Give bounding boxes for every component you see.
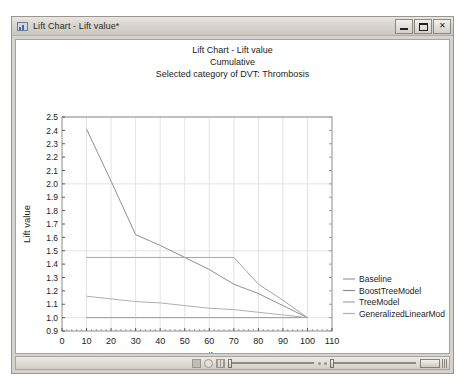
horizontal-scale-slider[interactable]: [228, 359, 314, 368]
y-tick-label: 1.9: [46, 192, 58, 202]
status-readout-box: [420, 359, 440, 368]
y-tick-label: 1.6: [46, 233, 58, 243]
y-tick-label: 1.4: [46, 259, 58, 269]
x-tick-label: 0: [59, 336, 64, 346]
window-title: Lift Chart - Lift value*: [33, 21, 394, 31]
x-tick-label: 100: [300, 336, 315, 346]
slider-separator-dot: [324, 362, 327, 365]
series-line-boosttreemodel: [87, 129, 308, 318]
window-titlebar[interactable]: Lift Chart - Lift value* ✕: [12, 17, 453, 36]
legend-label: GeneralizedLinearMod: [359, 309, 445, 319]
chart-legend[interactable]: BaselineBoostTreeModelTreeModelGeneraliz…: [343, 274, 445, 319]
vertical-scale-slider[interactable]: [330, 359, 416, 368]
x-tick-label: 60: [204, 336, 214, 346]
y-tick-label: 2.5: [46, 112, 58, 122]
x-tick-label: 80: [253, 336, 263, 346]
y-axis-tick-labels: 0.91.01.11.21.31.41.51.61.71.81.92.02.12…: [46, 112, 58, 336]
y-tick-label: 2.3: [46, 139, 58, 149]
y-axis-title: Lift value: [21, 205, 32, 243]
y-tick-label: 1.1: [46, 299, 58, 309]
x-tick-label: 10: [82, 336, 92, 346]
legend-label: BoostTreeModel: [359, 286, 421, 296]
status-bar[interactable]: [15, 356, 450, 370]
x-tick-label: 20: [106, 336, 116, 346]
maximize-button[interactable]: [414, 19, 432, 34]
x-tick-label: 110: [325, 336, 339, 346]
resize-grip-icon[interactable]: [442, 359, 447, 368]
y-tick-label: 1.3: [46, 273, 58, 283]
series-line-treemodel: [87, 257, 308, 317]
chart-canvas[interactable]: Lift Chart - Lift value Cumulative Selec…: [15, 39, 450, 354]
lift-chart-plot: 0.91.01.11.21.31.41.51.61.71.81.92.02.12…: [16, 40, 450, 354]
minimize-button[interactable]: [395, 19, 413, 34]
x-tick-label: 70: [229, 336, 239, 346]
axis-ticks: [62, 117, 332, 331]
x-tick-label: 50: [180, 336, 190, 346]
y-tick-label: 1.8: [46, 206, 58, 216]
slider-separator-dot: [318, 362, 321, 365]
y-tick-label: 1.5: [46, 246, 58, 256]
y-tick-label: 2.0: [46, 179, 58, 189]
data-series-lines: [87, 129, 308, 318]
legend-label: Baseline: [359, 274, 392, 284]
chart-window-icon: [16, 20, 29, 33]
x-axis-tick-labels: 0102030405060708090100110: [59, 336, 339, 346]
y-tick-label: 1.0: [46, 313, 58, 323]
y-tick-label: 2.4: [46, 126, 58, 136]
chart-type-icon[interactable]: [192, 359, 201, 368]
y-tick-label: 2.2: [46, 152, 58, 162]
legend-item[interactable]: Baseline: [343, 274, 392, 284]
x-tick-label: 30: [131, 336, 141, 346]
legend-item[interactable]: TreeModel: [343, 297, 399, 307]
close-button[interactable]: ✕: [433, 19, 451, 34]
grid-toggle-icon[interactable]: [216, 359, 225, 368]
pie-mode-icon[interactable]: [204, 359, 213, 368]
grid-lines: [62, 117, 332, 331]
plot-frame: [62, 117, 332, 331]
legend-item[interactable]: GeneralizedLinearMod: [343, 309, 445, 319]
y-tick-label: 2.1: [46, 166, 58, 176]
y-tick-label: 1.2: [46, 286, 58, 296]
y-tick-label: 1.7: [46, 219, 58, 229]
x-tick-label: 40: [155, 336, 165, 346]
x-tick-label: 90: [278, 336, 288, 346]
legend-label: TreeModel: [359, 297, 399, 307]
plot-area: 0.91.01.11.21.31.41.51.61.71.81.92.02.12…: [16, 40, 449, 353]
lift-chart-window: Lift Chart - Lift value* ✕ Lift Chart - …: [11, 16, 454, 374]
series-line-generalizedlinearmod: [87, 296, 308, 317]
legend-item[interactable]: BoostTreeModel: [343, 286, 421, 296]
window-client-area: Lift Chart - Lift value Cumulative Selec…: [12, 36, 453, 373]
close-icon: ✕: [434, 20, 450, 33]
x-axis-title: Percentile: [176, 350, 218, 354]
y-tick-label: 0.9: [46, 326, 58, 336]
